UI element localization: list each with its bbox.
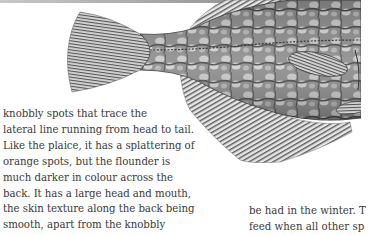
body-text-right-column: be had in the winter. T feed when all ot… xyxy=(249,203,371,235)
text-line: lateral line running from head to tail. xyxy=(3,122,218,138)
text-line: be had in the winter. T xyxy=(249,203,371,219)
text-line: orange spots, but the flounder is xyxy=(3,154,218,170)
body-text-left-column: knobbly spots that trace the lateral lin… xyxy=(3,106,218,233)
text-line: knobbly spots that trace the xyxy=(3,106,218,122)
text-line: the skin texture along the back being xyxy=(3,201,218,217)
text-line: feed when all other sp xyxy=(249,219,371,235)
text-line: back. It has a large head and mouth, xyxy=(3,186,218,202)
text-line: smooth, apart from the knobbly xyxy=(3,217,218,233)
text-line: much darker in colour across the xyxy=(3,170,218,186)
text-line: Like the plaice, it has a splattering of xyxy=(3,138,218,154)
